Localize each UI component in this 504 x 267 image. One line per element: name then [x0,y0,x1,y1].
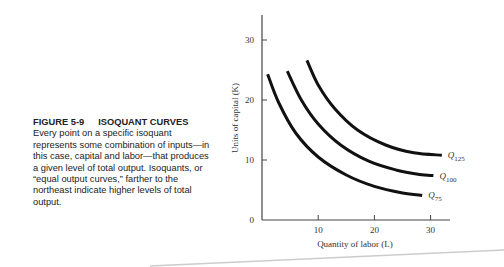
isoquant-curve-q100 [287,71,433,175]
y-tick-label: 10 [245,155,255,165]
x-tick-label: 20 [370,225,380,235]
curve-label-q125: Q125 [448,150,466,163]
isoquant-chart: 0102030102030Quantity of labor (L)Units … [0,0,504,267]
y-axis-label: Units of capital (K) [230,83,240,153]
y-tick-label: 20 [245,95,255,105]
page-edge-line [150,250,504,266]
x-tick-label: 30 [426,225,436,235]
x-tick-label: 10 [314,225,324,235]
y-tick-label: 0 [250,215,255,225]
curve-label-q75: Q75 [428,190,442,203]
y-tick-label: 30 [245,35,255,45]
curve-label-q100: Q100 [439,171,457,184]
x-axis-label: Quantity of labor (L) [317,239,393,249]
isoquant-curve-q125 [307,60,442,155]
isoquant-curve-q75 [268,74,423,195]
